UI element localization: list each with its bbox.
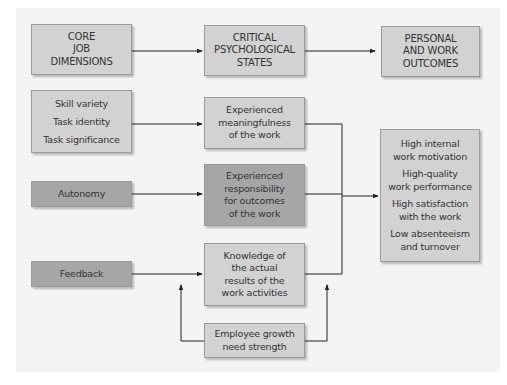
meaningfulness-box: Experienced meaningfulness of the work (204, 97, 305, 149)
state-line: the actual (232, 262, 278, 275)
header-line: AND WORK (403, 45, 458, 58)
dimension-feedback: Feedback (60, 268, 104, 281)
outcome-line: High internal (401, 138, 460, 151)
dimension-task-identity: Task identity (53, 113, 110, 131)
dimension-task-significance: Task significance (43, 131, 120, 149)
header-line: JOB (73, 43, 90, 56)
moderator-line: Employee growth (214, 328, 294, 341)
responsibility-box: Experienced responsibility for outcomes … (204, 164, 305, 226)
outcome-line: with the work (399, 211, 461, 224)
header-line: OUTCOMES (403, 58, 458, 71)
state-line: work activities (222, 287, 288, 300)
critical-states-header: CRITICAL PSYCHOLOGICAL STATES (204, 25, 305, 76)
knowledge-box: Knowledge of the actual results of the w… (204, 243, 305, 306)
state-line: of the work (229, 129, 281, 142)
state-line: Experienced (226, 170, 283, 183)
header-line: DIMENSIONS (50, 56, 112, 69)
state-line: meaningfulness (218, 117, 291, 130)
outcome-line: High satisfaction (392, 198, 468, 211)
header-line: CORE (68, 31, 95, 44)
growth-need-strength-box: Employee growth need strength (204, 323, 305, 358)
outcome-line: work performance (388, 181, 472, 194)
state-line: responsibility (224, 183, 284, 196)
outcomes-box: High internal work motivation High-quali… (380, 129, 480, 262)
autonomy-box: Autonomy (31, 181, 132, 207)
outcome-line: Low absenteeism (390, 228, 470, 241)
core-job-dimensions-header: CORE JOB DIMENSIONS (31, 24, 132, 75)
header-line: STATES (237, 57, 272, 70)
dimension-skill-variety: Skill variety (55, 95, 108, 113)
state-line: Experienced (226, 104, 283, 117)
outcome-line: and turnover (400, 241, 459, 254)
moderator-line: need strength (222, 341, 286, 354)
header-line: PSYCHOLOGICAL (214, 44, 295, 57)
connector-meaningfulness (305, 124, 342, 274)
outcome-line: High-quality (402, 168, 457, 181)
feedback-box: Feedback (31, 261, 132, 287)
state-line: results of the (225, 275, 285, 288)
dimension-autonomy: Autonomy (58, 188, 105, 201)
arrow-moderator-right (304, 285, 327, 341)
skill-task-dimensions-box: Skill variety Task identity Task signifi… (31, 90, 132, 153)
header-line: CRITICAL (233, 32, 277, 45)
state-line: of the work (229, 208, 281, 221)
state-line: Knowledge of (224, 250, 286, 263)
outcomes-header: PERSONAL AND WORK OUTCOMES (381, 26, 480, 77)
state-line: for outcomes (224, 195, 284, 208)
outcome-line: work motivation (393, 151, 467, 164)
header-line: PERSONAL (405, 33, 457, 46)
